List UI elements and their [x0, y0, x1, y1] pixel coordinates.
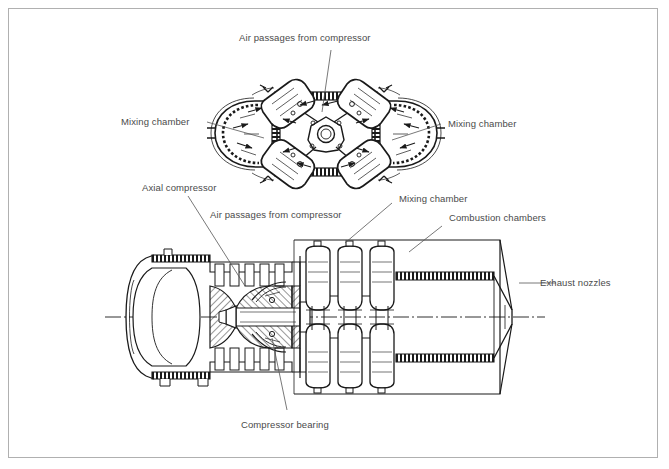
page-frame-border — [8, 8, 658, 458]
label-mixing-chamber-lower: Mixing chamber — [399, 193, 467, 204]
label-air-passages-top: Air passages from compressor — [239, 32, 371, 43]
label-compressor-bearing: Compressor bearing — [241, 419, 329, 430]
label-mixing-chamber-left: Mixing chamber — [121, 116, 189, 127]
label-exhaust-nozzles: Exhaust nozzles — [540, 277, 611, 288]
diagram-page: Air passages from compressor Mixing cham… — [0, 0, 669, 469]
label-combustion-chambers: Combustion chambers — [449, 212, 546, 223]
label-mixing-chamber-right: Mixing chamber — [448, 118, 516, 129]
label-axial-compressor: Axial compressor — [142, 182, 216, 193]
label-air-passages-lower: Air passages from compressor — [210, 209, 342, 220]
